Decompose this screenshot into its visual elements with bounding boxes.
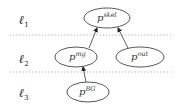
node-p-out: pout (116, 47, 164, 67)
edge-out-to-skel (118, 28, 128, 48)
level-label-3: ℓ3 (19, 86, 29, 102)
node-p-mg: pmg (55, 47, 97, 67)
node-p-skel: pskel (84, 8, 130, 28)
hierarchy-diagram: ℓ1 ℓ2 ℓ3 pskel pmg pout pBG (0, 0, 177, 107)
level-label-2: ℓ2 (19, 52, 29, 68)
level-label-1: ℓ1 (19, 13, 29, 29)
node-p-bg: pBG (67, 82, 109, 102)
edge-mg-to-skel (89, 28, 97, 48)
edge-bg-to-mg (83, 67, 86, 82)
